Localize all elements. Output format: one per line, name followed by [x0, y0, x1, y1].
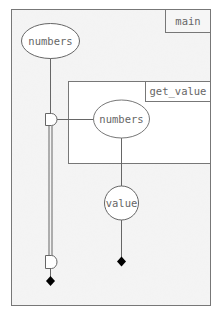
node-getvalue-numbers-label: numbers	[99, 113, 143, 125]
node-main-numbers-label: numbers	[28, 35, 72, 47]
lifetime-diagram: main get_value numbers numbers	[0, 0, 222, 323]
node-value: value	[105, 186, 139, 220]
scope-main-label-box: main	[166, 10, 211, 33]
node-main-numbers: numbers	[22, 24, 80, 59]
node-value-label: value	[106, 197, 138, 209]
scope-get-value-label-box: get_value	[146, 82, 211, 102]
node-getvalue-numbers: numbers	[94, 100, 150, 138]
connector-borrow-end	[46, 256, 58, 269]
connector-borrow-start	[46, 114, 58, 126]
scope-get-value-label: get_value	[150, 85, 207, 98]
scope-main-label: main	[175, 15, 200, 27]
